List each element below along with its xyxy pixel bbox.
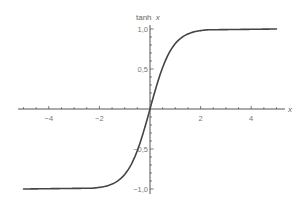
y-tick-label: −0,5 — [133, 145, 148, 154]
x-axis-title: x — [287, 105, 293, 114]
y-axis-title-var: x — [155, 13, 161, 22]
x-tick-label: 2 — [199, 114, 203, 123]
tanh-chart: −4−224 1,00,5−0,5−1,0 tanh x x — [0, 0, 305, 213]
x-tick-label: −4 — [45, 114, 54, 123]
x-tick-label: 4 — [249, 114, 253, 123]
y-axis-title-func: tanh — [136, 13, 152, 22]
y-tick-label: 1,0 — [138, 25, 148, 34]
y-tick-label: 0,5 — [138, 65, 148, 74]
x-tick-label: −2 — [95, 114, 104, 123]
y-axis-title: tanh x — [136, 13, 161, 22]
y-tick-label: −1,0 — [133, 185, 148, 194]
